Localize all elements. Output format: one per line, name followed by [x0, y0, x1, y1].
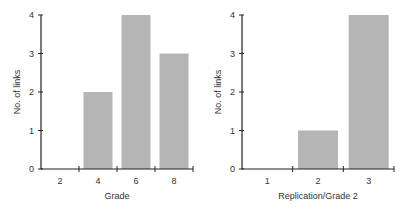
- y-tick-label: 1: [29, 126, 34, 136]
- x-tick-label: 8: [171, 176, 176, 186]
- y-tick-label: 4: [29, 10, 34, 20]
- y-axis-label: No. of links: [213, 69, 223, 114]
- y-tick-label: 2: [230, 87, 235, 97]
- x-axis-label: Replication/Grade 2: [278, 191, 358, 201]
- y-axis-label: No. of links: [12, 69, 22, 114]
- x-tick-label: 3: [366, 176, 371, 186]
- charts-figure: 012342468GradeNo. of links01234123Replic…: [0, 0, 404, 214]
- x-tick-label: 2: [315, 176, 320, 186]
- y-tick-label: 0: [230, 164, 235, 174]
- x-tick-label: 1: [265, 176, 270, 186]
- x-tick-label: 6: [133, 176, 138, 186]
- x-tick-label: 2: [57, 176, 62, 186]
- bar: [84, 92, 113, 169]
- y-tick-label: 3: [230, 49, 235, 59]
- y-tick-label: 0: [29, 164, 34, 174]
- y-tick-label: 1: [230, 126, 235, 136]
- y-tick-label: 3: [29, 49, 34, 59]
- y-tick-label: 2: [29, 87, 34, 97]
- bar: [160, 54, 189, 170]
- bar-chart-1: 012342468GradeNo. of links: [12, 10, 193, 201]
- bar: [122, 15, 151, 169]
- x-tick-label: 4: [95, 176, 100, 186]
- bar-chart-2: 01234123Replication/Grade 2No. of links: [213, 10, 394, 201]
- bar: [349, 15, 389, 169]
- bar: [298, 131, 338, 170]
- x-axis-label: Grade: [104, 191, 129, 201]
- y-tick-label: 4: [230, 10, 235, 20]
